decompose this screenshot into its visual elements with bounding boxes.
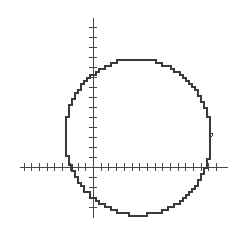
circle-path (66, 60, 210, 216)
stepped-circle-curve (66, 60, 212, 216)
circle-plot (0, 0, 246, 233)
plot-canvas (0, 0, 246, 233)
axes (20, 18, 228, 218)
